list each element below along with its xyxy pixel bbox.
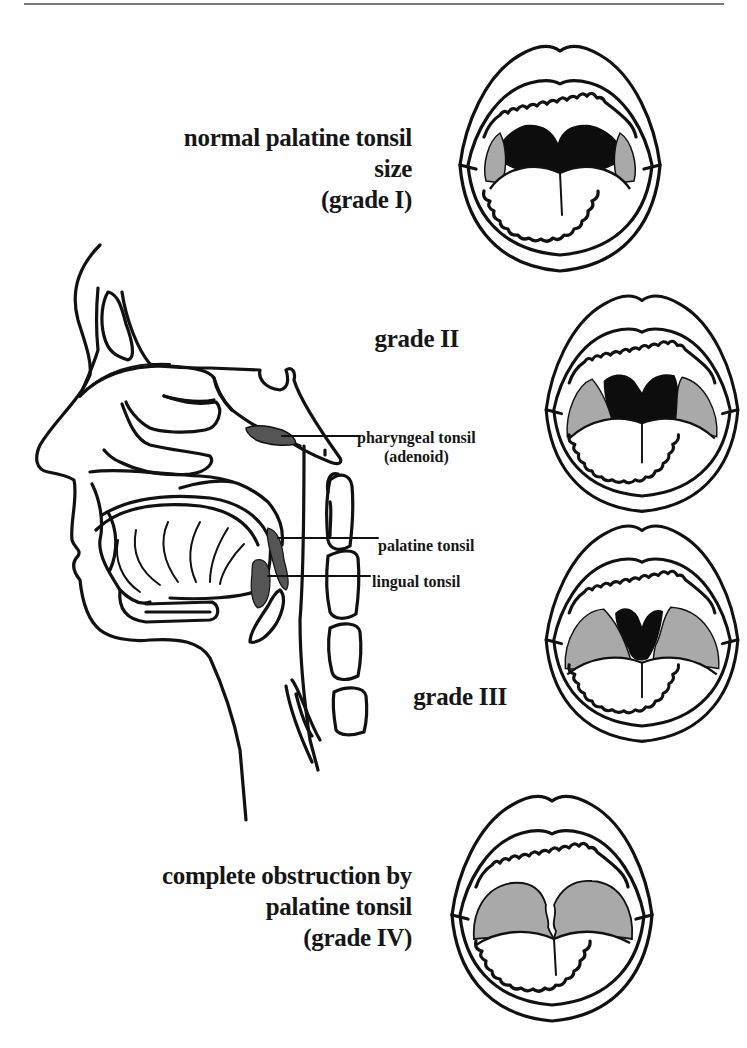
- label-line: size: [184, 153, 412, 184]
- label-line: (grade I): [184, 184, 412, 215]
- label-grade-4: complete obstruction by palatine tonsil …: [162, 860, 412, 953]
- mouth-grade-2-illustration: [532, 290, 747, 520]
- label-lingual-tonsil: lingual tonsil: [372, 572, 460, 591]
- label-line: (grade IV): [162, 922, 412, 953]
- label-line: normal palatine tonsil: [184, 122, 412, 153]
- label-line: palatine tonsil: [162, 891, 412, 922]
- top-rule: [24, 3, 724, 5]
- label-line: grade III: [413, 681, 507, 712]
- pharynx-dark: [494, 125, 626, 176]
- tonsil-left: [474, 883, 554, 939]
- label-line: grade II: [375, 323, 459, 354]
- tonsil-right: [554, 881, 633, 939]
- mouth-grade-1-illustration: [450, 40, 670, 280]
- tongue: [476, 932, 630, 945]
- label-line: complete obstruction by: [162, 860, 412, 891]
- sagittal-head-illustration: [0, 240, 380, 820]
- label-palatine-tonsil: palatine tonsil: [378, 536, 474, 555]
- label-grade-3: grade III: [413, 681, 507, 712]
- label-grade-2: grade II: [375, 323, 459, 354]
- label-grade-1: normal palatine tonsil size (grade I): [184, 122, 412, 215]
- mouth-grade-4-illustration: [437, 790, 667, 1030]
- mouth-grade-3-illustration: [532, 520, 747, 750]
